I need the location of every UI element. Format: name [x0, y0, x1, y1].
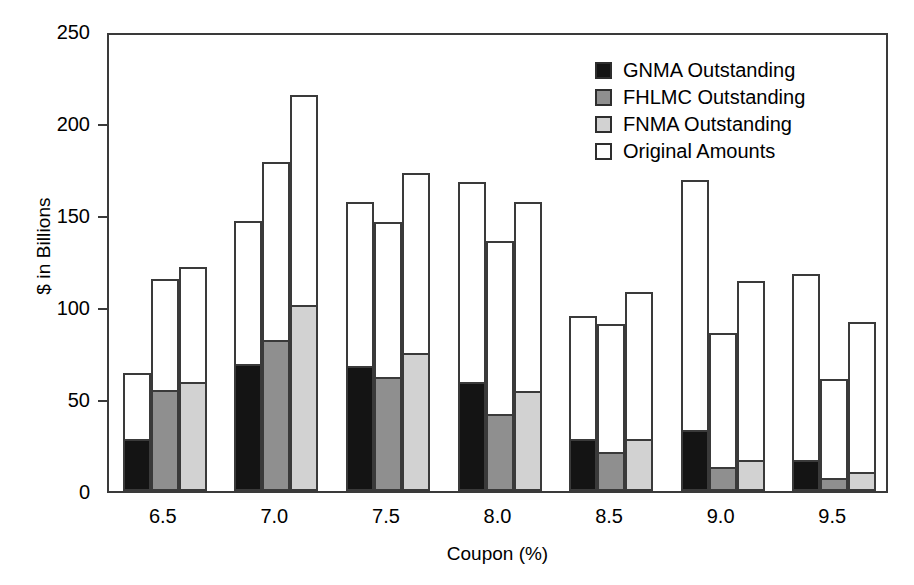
legend-swatch-icon	[595, 89, 612, 106]
legend-item-2: FNMA Outstanding	[595, 111, 845, 137]
y-tick-label: 0	[22, 482, 90, 502]
bar-gnma-8-0	[458, 182, 486, 491]
bar-fhlmc-8-0	[486, 241, 514, 491]
bar-segment-gnma-outstanding	[234, 364, 262, 491]
x-tick-label: 7.0	[214, 505, 334, 527]
legend-swatch-icon	[595, 116, 612, 133]
legend-label: FHLMC Outstanding	[623, 86, 805, 108]
bar-fnma-8-5	[625, 292, 653, 491]
x-tick-label: 8.0	[438, 505, 558, 527]
bar-fhlmc-6-5	[151, 279, 179, 491]
bar-segment-fhlmc-outstanding	[262, 340, 290, 491]
bar-fnma-6-5	[179, 267, 207, 491]
bar-gnma-8-5	[569, 316, 597, 491]
bar-fnma-7-0	[290, 95, 318, 491]
bar-fhlmc-8-5	[597, 324, 625, 491]
bar-segment-fnma-outstanding	[737, 460, 765, 491]
bar-fhlmc-9-0	[709, 333, 737, 491]
legend-item-1: FHLMC Outstanding	[595, 84, 845, 110]
legend-label: FNMA Outstanding	[623, 113, 792, 135]
bar-gnma-9-0	[681, 180, 709, 491]
bar-fnma-8-0	[514, 202, 542, 491]
y-tick-mark	[98, 216, 107, 218]
bar-segment-gnma-outstanding	[346, 366, 374, 491]
bar-gnma-6-5	[123, 373, 151, 491]
legend-item-0: GNMA Outstanding	[595, 57, 845, 83]
x-tick-label: 6.5	[103, 505, 223, 527]
bar-fhlmc-7-5	[374, 222, 402, 491]
bar-segment-fhlmc-outstanding	[597, 452, 625, 491]
x-axis-title: Coupon (%)	[107, 543, 888, 565]
bar-gnma-9-5	[792, 274, 820, 491]
y-tick-label: 50	[22, 390, 90, 410]
bar-segment-fhlmc-outstanding	[820, 478, 848, 491]
chart-legend: GNMA OutstandingFHLMC OutstandingFNMA Ou…	[595, 57, 845, 165]
bar-segment-fhlmc-outstanding	[151, 390, 179, 491]
bar-segment-fnma-outstanding	[514, 391, 542, 491]
bar-segment-fhlmc-outstanding	[374, 377, 402, 491]
bar-segment-fnma-outstanding	[179, 382, 207, 491]
y-tick-mark	[98, 124, 107, 126]
legend-item-3: Original Amounts	[595, 138, 845, 164]
y-tick-label: 100	[22, 298, 90, 318]
bar-fnma-9-0	[737, 281, 765, 491]
bar-segment-fhlmc-outstanding	[486, 414, 514, 491]
y-tick-label: 150	[22, 206, 90, 226]
legend-label: GNMA Outstanding	[623, 59, 795, 81]
bar-segment-fnma-outstanding	[848, 472, 876, 491]
chart-figure: $ in Billions 050100150200250 6.57.07.58…	[0, 0, 914, 585]
y-tick-mark	[98, 400, 107, 402]
bar-fhlmc-7-0	[262, 162, 290, 491]
bar-segment-fnma-outstanding	[625, 439, 653, 491]
bar-segment-fhlmc-outstanding	[709, 467, 737, 491]
legend-swatch-icon	[595, 62, 612, 79]
bar-fnma-9-5	[848, 322, 876, 491]
bar-fhlmc-9-5	[820, 379, 848, 491]
bar-gnma-7-5	[346, 202, 374, 491]
bar-fnma-7-5	[402, 173, 430, 491]
y-tick-label: 200	[22, 114, 90, 134]
y-axis-tick-labels: 050100150200250	[22, 0, 90, 585]
bar-segment-fnma-outstanding	[402, 353, 430, 491]
x-tick-label: 8.5	[549, 505, 669, 527]
bar-segment-gnma-outstanding	[569, 439, 597, 491]
bar-segment-gnma-outstanding	[681, 430, 709, 491]
y-tick-label: 250	[22, 22, 90, 42]
bar-segment-gnma-outstanding	[458, 382, 486, 491]
x-tick-label: 9.5	[772, 505, 892, 527]
bar-gnma-7-0	[234, 221, 262, 491]
bar-segment-fnma-outstanding	[290, 305, 318, 491]
bar-segment-gnma-outstanding	[792, 460, 820, 491]
y-tick-mark	[98, 308, 107, 310]
legend-label: Original Amounts	[623, 140, 775, 162]
x-tick-label: 7.5	[326, 505, 446, 527]
legend-swatch-icon	[595, 143, 612, 160]
bar-segment-gnma-outstanding	[123, 439, 151, 491]
x-tick-label: 9.0	[661, 505, 781, 527]
